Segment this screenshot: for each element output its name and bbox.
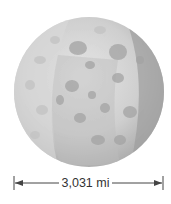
diameter-dimension-line — [0, 0, 171, 204]
diameter-label-wrap: 3,031 mi — [0, 176, 171, 190]
diameter-label: 3,031 mi — [59, 176, 113, 190]
